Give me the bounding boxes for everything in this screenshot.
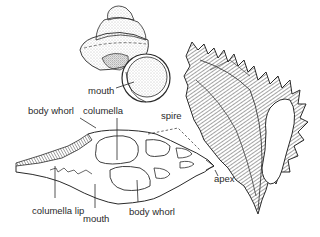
label-body-whorl-bottom: body whorl [129, 207, 175, 217]
label-apex: apex [214, 174, 235, 184]
shell-anatomy-diagram: mouth body whorl columella spire apex co… [0, 0, 320, 237]
label-mouth-top: mouth [88, 86, 114, 96]
snail-shell-illustration [0, 0, 320, 237]
label-spire: spire [161, 111, 182, 121]
label-body-whorl-top: body whorl [28, 106, 74, 116]
murex-shell [184, 42, 308, 214]
cross-section-shell [16, 118, 218, 208]
label-columella: columella [83, 106, 123, 116]
label-mouth-bottom: mouth [83, 214, 109, 224]
label-columella-lip: columella lip [32, 206, 84, 216]
